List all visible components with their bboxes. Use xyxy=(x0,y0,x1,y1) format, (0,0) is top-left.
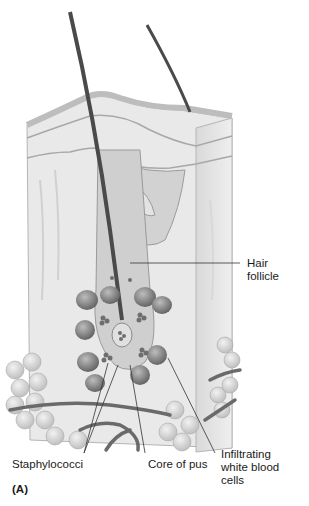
label-staphylococci: Staphylococci xyxy=(12,458,83,471)
panel-label: (A) xyxy=(12,483,28,495)
label-infiltrating-white-blood-cells: Infiltrating white blood cells xyxy=(221,448,279,487)
hair-follicle-infection-figure: Hair follicle Staphylococci Core of pus … xyxy=(0,0,309,506)
illustration xyxy=(0,0,309,506)
label-hair-follicle: Hair follicle xyxy=(247,257,279,283)
core-of-pus-shape xyxy=(112,323,132,347)
label-core-of-pus: Core of pus xyxy=(148,458,207,471)
hair-shaft-secondary xyxy=(147,25,190,112)
